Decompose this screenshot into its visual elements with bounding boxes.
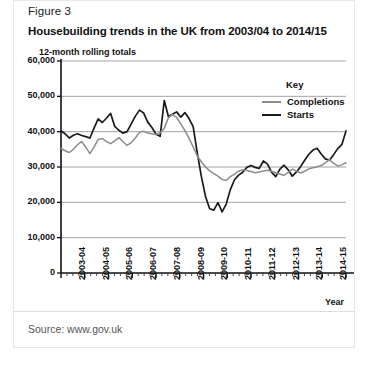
chart-legend: Key Completions Starts [262,79,345,121]
legend-title: Key [286,79,345,90]
x-axis-title: Year [325,297,344,307]
legend-label-starts: Starts [287,109,314,120]
y-axis-tick-label: 40,000 [27,126,55,136]
x-axis-tick-label: 2009-10 [219,247,229,280]
x-axis-tick-label: 2007-08 [172,247,182,280]
x-axis-tick-label: 2005-06 [124,247,134,280]
y-axis-tick-label: 50,000 [27,90,55,100]
source-text: Source: www.gov.uk [28,323,122,335]
series-line-completions [61,114,346,180]
x-axis-tick-label: 2014-15 [338,247,348,280]
source-divider [14,311,355,312]
legend-item-completions: Completions [262,95,345,108]
legend-swatch-completions [262,101,281,103]
chart-plot-area: 010,00020,00030,00040,00050,00060,000 20… [14,1,355,348]
y-axis-tick-label: 60,000 [27,55,55,65]
legend-item-starts: Starts [262,108,345,121]
y-axis-tick-label: 10,000 [27,232,55,242]
legend-label-completions: Completions [287,96,345,107]
chart-svg [14,1,355,348]
x-axis-tick-label: 2011-12 [267,247,277,280]
y-axis-tick-label: 0 [50,267,55,277]
y-axis-tick-label: 20,000 [27,196,55,206]
x-axis-tick-label: 2010-11 [243,247,253,280]
x-axis-tick-label: 2013-14 [314,247,324,280]
x-axis-tick-label: 2004-05 [101,247,111,280]
y-axis-tick-label: 30,000 [27,161,55,171]
x-axis-tick-label: 2008-09 [196,247,206,280]
x-axis-tick-label: 2012-13 [291,247,301,280]
figure-panel: Figure 3 Housebuilding trends in the UK … [13,0,355,348]
legend-swatch-starts [262,114,281,116]
x-axis-tick-label: 2006-07 [148,247,158,280]
x-axis-tick-label: 2003-04 [77,247,87,280]
